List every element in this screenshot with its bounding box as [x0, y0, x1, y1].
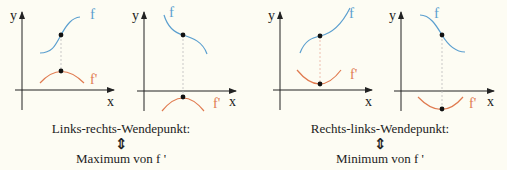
f-label: f	[349, 5, 354, 22]
f-label: f	[169, 4, 174, 21]
f-curve	[300, 8, 350, 53]
extremum-point	[59, 69, 64, 74]
f-label: f	[434, 5, 439, 22]
f-label: f	[90, 6, 95, 23]
fprime-label: f'	[213, 96, 220, 112]
inflection-point	[318, 34, 323, 39]
x-axis-label: x	[229, 94, 236, 110]
caption-result: Minimum von f '	[305, 151, 455, 167]
y-axis-label: y	[268, 8, 275, 24]
inflection-point	[59, 33, 64, 38]
extremum-point	[318, 82, 323, 87]
panel-1	[15, 12, 114, 110]
inflection-point	[440, 33, 445, 38]
y-axis-label: y	[132, 8, 139, 24]
equivalence-arrow-icon: ⇕	[46, 137, 196, 151]
y-axis-label: y	[10, 8, 17, 24]
fprime-label: f'	[469, 96, 476, 112]
panel-2	[137, 12, 236, 111]
fprime-curve	[40, 72, 84, 84]
equivalence-arrow-icon: ⇕	[305, 137, 455, 151]
caption-result: Maximum von f '	[46, 151, 196, 167]
y-axis-label: y	[389, 8, 396, 24]
fprime-label: f'	[90, 72, 97, 88]
x-axis-label: x	[107, 94, 114, 110]
x-axis-label: x	[487, 94, 494, 110]
caption-group-2: Rechts-links-Wendepunkt: ⇕ Minimum von f…	[305, 121, 455, 167]
panel-3	[273, 8, 372, 110]
panel-4	[394, 12, 494, 111]
fprime-label: f'	[350, 67, 357, 83]
inflection-point	[181, 33, 186, 38]
fprime-curve	[162, 98, 204, 111]
caption-group-1: Links-rechts-Wendepunkt: ⇕ Maximum von f…	[46, 121, 196, 167]
extremum-point	[181, 95, 186, 100]
extremum-point	[440, 107, 445, 112]
x-axis-label: x	[365, 94, 372, 110]
